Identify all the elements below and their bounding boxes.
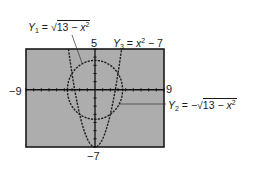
y3-equation-label: Y3 = x2 − 7 [113, 37, 163, 50]
ymin-label: −7 [87, 151, 100, 162]
ymax-label: 5 [91, 38, 97, 49]
y1-equation-label: Y1 = √13 − x2 [28, 21, 90, 34]
xmin-label: −9 [9, 86, 22, 97]
xmax-label: 9 [166, 84, 172, 95]
y2-equation-label: Y2 = −√13 − x2 [168, 99, 237, 112]
